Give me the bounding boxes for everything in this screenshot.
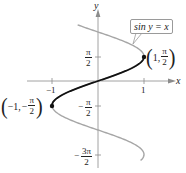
callout-pointer (133, 33, 142, 44)
point-lower-x: −1, (8, 101, 21, 112)
point-lower-sign: − (22, 101, 28, 112)
tick-label-x-1: 1 (141, 86, 146, 95)
point-lower-y: π 2 (28, 96, 35, 116)
x-axis-arrow-icon (168, 79, 176, 84)
tick-label-y-pi-over-2: π 2 (85, 48, 92, 68)
equation-label: sin y = x (134, 21, 169, 32)
tick-label-y-neg-3pi-over-2: 3π 2 (81, 147, 92, 167)
point-lower-marker (50, 104, 54, 108)
tick-label-y-neg-3pi-over-2-sign: − (74, 151, 79, 160)
point-label-upper: ( 1, π 2 ) (146, 47, 175, 67)
tick-label-x-neg1: −1 (46, 86, 56, 95)
point-upper-x: 1, (153, 52, 161, 63)
tick-label-y-neg-pi-over-2: π 2 (85, 98, 92, 118)
equation-callout: sin y = x (130, 19, 173, 34)
point-upper-y: π 2 (161, 47, 168, 67)
point-label-lower: ( −1, − π 2 ) (1, 96, 43, 116)
y-axis-label: y (94, 1, 98, 11)
x-axis-label: x (176, 76, 180, 86)
tick-label-y-neg-pi-over-2-sign: − (78, 102, 83, 111)
